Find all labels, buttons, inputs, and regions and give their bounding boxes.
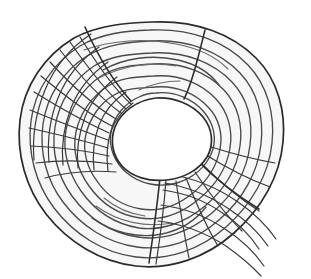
- pith-group: [112, 98, 211, 181]
- pith-cavity: [112, 98, 211, 181]
- figure-container: Tree trunk cross-section with growth rin…: [0, 0, 311, 279]
- tree-ring-diagram: Tree trunk cross-section with growth rin…: [0, 0, 311, 279]
